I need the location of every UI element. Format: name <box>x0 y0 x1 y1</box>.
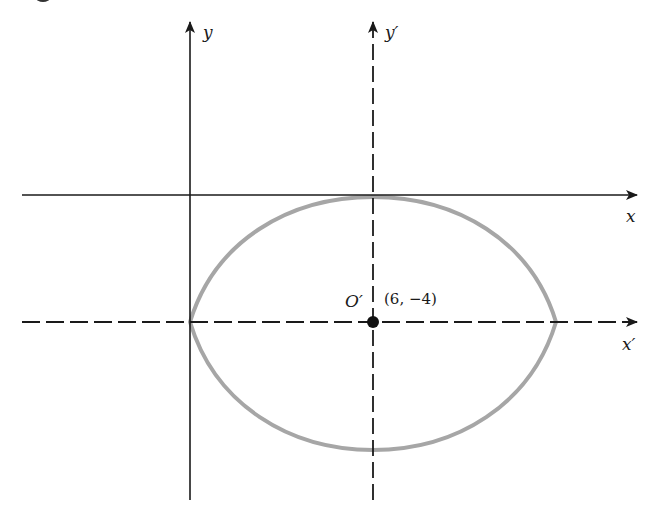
x-axis-label: x <box>626 208 636 225</box>
coordinate-diagram: y y′ x x′ O′ (6, −4) <box>0 0 658 527</box>
origin-prime-coordinates: (6, −4) <box>384 292 437 307</box>
diagram-canvas <box>0 0 658 527</box>
y-prime-axis-label: y′ <box>385 24 398 41</box>
x-prime-axis-label: x′ <box>622 336 635 353</box>
y-axis-label: y <box>203 24 213 41</box>
origin-prime-label: O′ <box>345 293 363 310</box>
origin-prime-point <box>367 316 379 328</box>
